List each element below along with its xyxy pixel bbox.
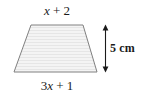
top-side-constant: 2 (64, 3, 71, 18)
height-arrow-head-bottom (103, 67, 109, 73)
trapezoid-fill (14, 25, 97, 72)
trapezoid-figure: x + 2 3x + 1 5 cm (0, 0, 143, 96)
bottom-side-constant: 1 (67, 78, 74, 93)
bottom-side-label: 3x + 1 (0, 79, 114, 92)
height-arrow (103, 25, 109, 73)
height-label: 5 cm (110, 42, 135, 54)
height-arrow-head-top (103, 25, 109, 31)
trapezoid-shape (14, 25, 97, 72)
top-side-label: x + 2 (0, 4, 114, 17)
bottom-side-operator: + (53, 78, 67, 93)
top-side-operator: + (50, 3, 64, 18)
